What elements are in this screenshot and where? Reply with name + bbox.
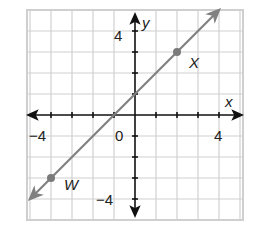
point-w-label: W <box>64 176 80 193</box>
tick-x-4: 4 <box>214 127 222 144</box>
coordinate-plane: X W x y −4 0 4 4 −4 <box>0 0 253 230</box>
x-axis-label: x <box>224 93 233 110</box>
point-x-label: X <box>188 54 200 71</box>
point-x <box>173 48 181 56</box>
tick-y-4: 4 <box>114 27 122 44</box>
tick-origin: 0 <box>115 127 123 144</box>
point-w <box>47 174 55 182</box>
tick-x-neg4: −4 <box>29 127 46 144</box>
line-series <box>30 10 219 199</box>
y-axis-label: y <box>141 14 151 31</box>
tick-y-neg4: −4 <box>96 191 113 208</box>
